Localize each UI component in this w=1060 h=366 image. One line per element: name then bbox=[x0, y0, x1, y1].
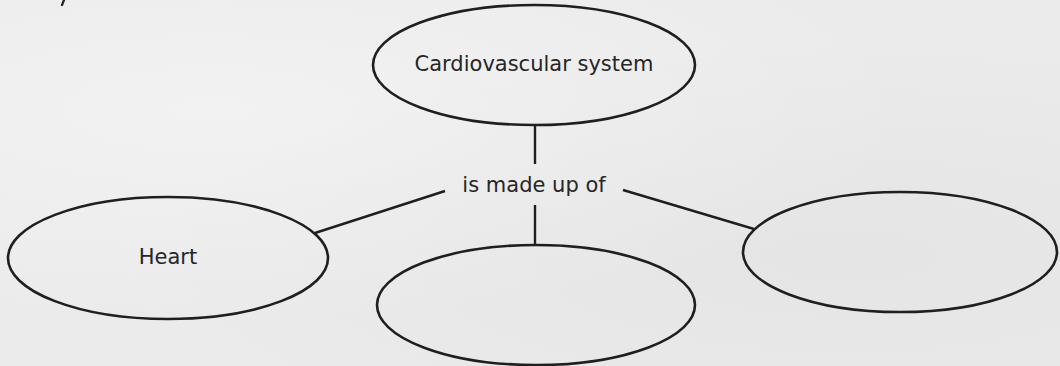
node-heart-label: Heart bbox=[139, 244, 197, 270]
relation-label: is made up of bbox=[462, 172, 605, 198]
cropped-text-fragment bbox=[62, 0, 64, 5]
connector-relation-to-right bbox=[623, 190, 754, 229]
node-blank-middle-answer-area[interactable] bbox=[416, 275, 656, 335]
node-blank-right-answer-area[interactable] bbox=[780, 222, 1020, 282]
node-cardiovascular-system-label: Cardiovascular system bbox=[415, 51, 654, 77]
connector-relation-to-heart bbox=[315, 191, 445, 233]
worksheet-page: Cardiovascular system is made up of Hear… bbox=[0, 0, 1060, 366]
